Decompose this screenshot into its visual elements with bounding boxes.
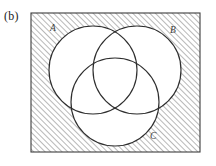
venn-diagram: A B C xyxy=(0,0,216,166)
shaded-complement-region xyxy=(0,0,216,166)
set-label-c: C xyxy=(150,131,157,141)
set-label-b: B xyxy=(170,25,176,35)
set-label-a: A xyxy=(49,23,56,33)
figure-root: (b) A B C xyxy=(0,0,216,166)
